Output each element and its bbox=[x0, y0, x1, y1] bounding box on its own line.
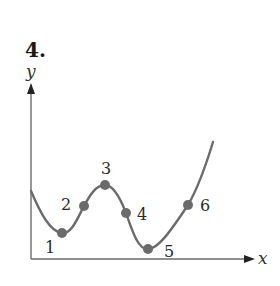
point-6: 6 bbox=[183, 196, 210, 215]
point-label: 3 bbox=[101, 159, 111, 178]
point-label: 6 bbox=[200, 196, 210, 215]
point-marker bbox=[121, 208, 131, 218]
point-label: 5 bbox=[164, 242, 174, 261]
x-axis-arrow-icon bbox=[244, 255, 255, 263]
diagram-canvas: 4. y x 1 2 3 4 5 6 bbox=[0, 0, 280, 286]
problem-number: 4. bbox=[25, 38, 46, 62]
y-axis-label: y bbox=[25, 61, 36, 81]
point-marker bbox=[79, 201, 89, 211]
point-label: 2 bbox=[61, 195, 71, 214]
point-marker bbox=[183, 200, 193, 210]
point-marker bbox=[143, 244, 153, 254]
point-label: 1 bbox=[45, 238, 55, 257]
point-1: 1 bbox=[45, 228, 67, 257]
point-2: 2 bbox=[61, 195, 89, 214]
point-marker bbox=[57, 228, 67, 238]
function-graph: 4. y x 1 2 3 4 5 6 bbox=[0, 0, 280, 286]
point-label: 4 bbox=[137, 205, 147, 224]
y-axis-arrow-icon bbox=[27, 83, 35, 94]
point-3: 3 bbox=[100, 159, 111, 190]
x-axis-label: x bbox=[258, 248, 268, 268]
point-marker bbox=[100, 180, 110, 190]
